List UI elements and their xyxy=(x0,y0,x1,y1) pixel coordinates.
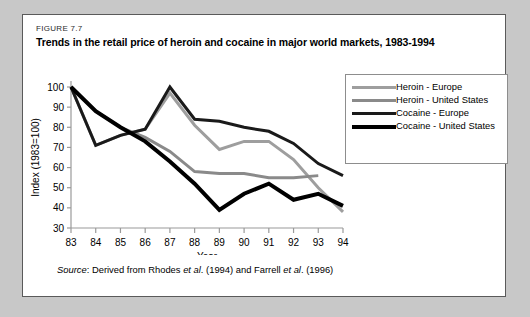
legend-item: Cocaine - Europe xyxy=(352,107,507,118)
svg-text:90: 90 xyxy=(53,102,65,113)
x-axis-title: Year xyxy=(197,251,218,255)
svg-text:70: 70 xyxy=(53,142,65,153)
figure-card: FIGURE 7.7 Trends in the retail price of… xyxy=(22,14,506,297)
svg-text:80: 80 xyxy=(53,122,65,133)
svg-text:86: 86 xyxy=(140,237,152,248)
svg-text:87: 87 xyxy=(164,237,176,248)
legend-label-heroin-united-states: Heroin - United States xyxy=(396,94,488,105)
source-italic-2: et al xyxy=(283,264,301,275)
source-prefix: Source xyxy=(57,264,87,275)
legend-item: Heroin - United States xyxy=(352,94,507,105)
svg-text:84: 84 xyxy=(90,237,102,248)
source-text-3: . (1996) xyxy=(301,264,333,275)
svg-text:50: 50 xyxy=(53,182,65,193)
source-italic-1: et al xyxy=(183,264,201,275)
page-title: Trends in the retail price of heroin and… xyxy=(36,36,435,48)
svg-text:92: 92 xyxy=(288,237,300,248)
legend-label-cocaine-united-states: Cocaine - United States xyxy=(396,120,495,131)
y-axis-title: Index (1983=100) xyxy=(30,118,41,197)
legend-swatch-heroin-europe xyxy=(352,86,396,89)
y-axis: 30405060708090100 xyxy=(47,81,71,234)
chart-series-lines xyxy=(71,87,343,212)
figure-number: FIGURE 7.7 xyxy=(36,24,83,33)
svg-text:40: 40 xyxy=(53,202,65,213)
svg-text:91: 91 xyxy=(263,237,275,248)
legend-item: Heroin - Europe xyxy=(352,81,507,92)
legend-item: Cocaine - United States xyxy=(352,120,507,131)
source-text-1: : Derived from Rhodes xyxy=(87,264,183,275)
chart-legend: Heroin - Europe Heroin - United States C… xyxy=(345,74,508,164)
svg-text:85: 85 xyxy=(115,237,127,248)
svg-text:60: 60 xyxy=(53,162,65,173)
source-caption: Source: Derived from Rhodes et al. (1994… xyxy=(57,264,333,275)
x-axis: 838485868788899091929394 xyxy=(65,228,349,248)
svg-text:89: 89 xyxy=(214,237,226,248)
legend-label-cocaine-europe: Cocaine - Europe xyxy=(396,107,469,118)
svg-text:93: 93 xyxy=(313,237,325,248)
svg-text:100: 100 xyxy=(47,82,64,93)
legend-swatch-heroin-united-states xyxy=(352,99,396,102)
legend-label-heroin-europe: Heroin - Europe xyxy=(396,81,462,92)
legend-swatch-cocaine-europe xyxy=(352,112,396,115)
svg-text:30: 30 xyxy=(53,223,65,234)
svg-text:83: 83 xyxy=(65,237,77,248)
svg-text:94: 94 xyxy=(337,237,349,248)
source-text-2: . (1994) and Farrell xyxy=(201,264,283,275)
legend-swatch-cocaine-united-states xyxy=(352,125,396,129)
svg-text:90: 90 xyxy=(239,237,251,248)
svg-text:88: 88 xyxy=(189,237,201,248)
